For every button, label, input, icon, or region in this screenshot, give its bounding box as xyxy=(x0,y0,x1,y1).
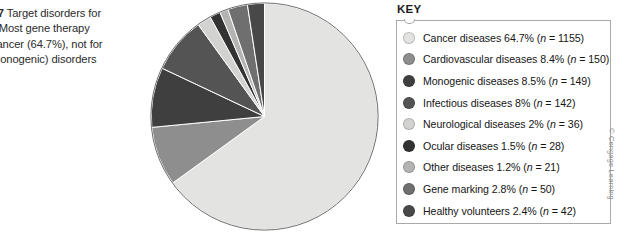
legend-item-label: Infectious diseases 8% (n = 142) xyxy=(423,97,575,109)
figure-caption: E 16.17 Target disorders for erapy. Most… xyxy=(0,6,144,68)
figure-gene-therapy-target-disorders: E 16.17 Target disorders for erapy. Most… xyxy=(0,0,637,232)
legend-item[interactable]: Other diseases 1.2% (n = 21) xyxy=(397,157,610,179)
legend-swatch-6 xyxy=(403,140,415,152)
legend-swatch-4 xyxy=(403,97,415,109)
legend-item[interactable]: Neurological diseases 2% (n = 36) xyxy=(397,113,610,135)
legend-swatch-3 xyxy=(403,75,415,87)
copyright-credit: © Cengage Learning xyxy=(607,128,616,200)
legend-swatch-2 xyxy=(403,53,415,65)
legend-item[interactable]: Infectious diseases 8% (n = 142) xyxy=(397,92,610,114)
legend-item-label: Healthy volunteers 2.4% (n = 42) xyxy=(423,205,576,217)
legend-item-label: Gene marking 2.8% (n = 50) xyxy=(423,183,555,195)
legend-item[interactable]: Gene marking 2.8% (n = 50) xyxy=(397,178,610,200)
legend-item-label: Monogenic diseases 8.5% (n = 149) xyxy=(423,75,591,87)
legend-item-label: Ocular diseases 1.5% (n = 28) xyxy=(423,140,564,152)
legend-item-label: Cancer diseases 64.7% (n = 1155) xyxy=(423,32,584,44)
legend-list: Cancer diseases 64.7% (n = 1155)Cardiova… xyxy=(397,21,610,221)
legend-swatch-9 xyxy=(403,205,415,217)
legend-item[interactable]: Ocular diseases 1.5% (n = 28) xyxy=(397,135,610,157)
pie-chart xyxy=(150,2,379,231)
legend-item[interactable]: Cancer diseases 64.7% (n = 1155) xyxy=(397,27,610,49)
legend-swatch-8 xyxy=(403,183,415,195)
legend-item-label: Neurological diseases 2% (n = 36) xyxy=(423,118,583,130)
legend-item-label: Other diseases 1.2% (n = 21) xyxy=(423,161,560,173)
legend-item[interactable]: Monogenic diseases 8.5% (n = 149) xyxy=(397,70,610,92)
figure-caption-text: Target disorders for erapy. Most gene th… xyxy=(0,7,102,65)
pie-chart-svg xyxy=(150,2,379,231)
legend-item[interactable]: Healthy volunteers 2.4% (n = 42) xyxy=(397,200,610,222)
key-title: KEY xyxy=(397,3,421,15)
legend-item[interactable]: Cardiovascular diseases 8.4% (n = 150) xyxy=(397,49,610,71)
pie-slice-group xyxy=(151,3,377,229)
legend-item-label: Cardiovascular diseases 8.4% (n = 150) xyxy=(423,53,609,65)
legend-box: Cancer diseases 64.7% (n = 1155)Cardiova… xyxy=(396,20,611,224)
legend-swatch-1 xyxy=(403,32,415,44)
legend-swatch-7 xyxy=(403,161,415,173)
legend-swatch-5 xyxy=(403,118,415,130)
